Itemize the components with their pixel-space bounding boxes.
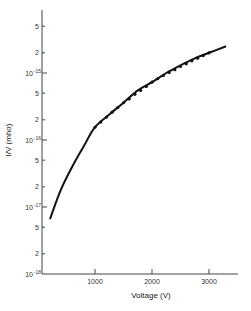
y-tick-label: 10: [25, 271, 33, 278]
y-tick-label: 5: [35, 90, 39, 97]
data-point: [128, 97, 131, 100]
data-point: [145, 85, 148, 88]
y-axis-label: I/V (mho): [4, 123, 13, 156]
data-point: [139, 89, 142, 92]
data-point: [150, 81, 153, 84]
fit-curve: [50, 46, 226, 219]
data-point: [116, 106, 119, 109]
data-point: [185, 62, 188, 65]
y-tick-label: 5: [35, 224, 39, 231]
data-point: [173, 68, 176, 71]
y-tick-label: 10: [25, 137, 33, 144]
y-tick-exponent: -16: [34, 135, 41, 141]
data-point: [196, 57, 199, 60]
y-tick-label: 5: [35, 157, 39, 164]
data-point: [190, 59, 193, 62]
chart: 10-182510-172510-162510-1525 10002000300…: [0, 0, 251, 311]
data-point: [99, 120, 102, 123]
x-tick-label: 1000: [87, 278, 103, 285]
x-axis-label: Voltage (V): [131, 291, 171, 300]
x-tick-label: 3000: [201, 278, 217, 285]
data-point: [133, 93, 136, 96]
y-tick-exponent: -17: [34, 202, 41, 208]
data-point: [162, 74, 165, 77]
data-point: [105, 115, 108, 118]
data-point: [122, 101, 125, 104]
x-axis-ticks: 100020003000: [87, 269, 217, 285]
data-point: [111, 111, 114, 114]
y-tick-label: 5: [35, 23, 39, 30]
y-tick-label: 10: [25, 204, 33, 211]
axes: [42, 10, 238, 274]
data-points: [93, 51, 210, 129]
y-tick-label: 2: [35, 183, 39, 190]
y-tick-exponent: -15: [34, 68, 41, 74]
data-point: [179, 65, 182, 68]
data-point: [207, 51, 210, 54]
y-tick-label: 2: [35, 250, 39, 257]
data-point: [93, 126, 96, 129]
y-axis-ticks: 10-182510-172510-162510-1525: [25, 23, 47, 278]
x-tick-label: 2000: [144, 278, 160, 285]
y-tick-label: 2: [35, 116, 39, 123]
data-point: [168, 71, 171, 74]
y-tick-label: 2: [35, 49, 39, 56]
data-point: [202, 54, 205, 57]
data-point: [156, 77, 159, 80]
y-tick-exponent: -18: [34, 269, 41, 275]
y-tick-label: 10: [25, 70, 33, 77]
